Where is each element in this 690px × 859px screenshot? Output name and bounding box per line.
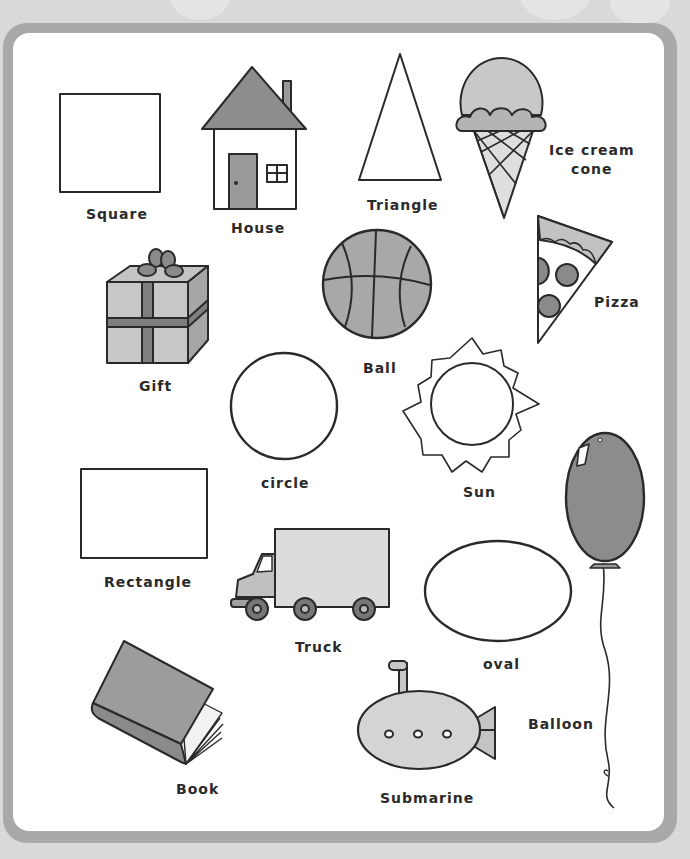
pizza-icon [538, 216, 612, 343]
balloon-icon [566, 433, 644, 808]
book-icon [92, 641, 223, 764]
label-pizza: Pizza [594, 294, 640, 310]
ice-cream-cone-icon [456, 58, 545, 218]
label-ice-cream-line1: Ice cream [549, 141, 635, 160]
label-truck: Truck [295, 639, 343, 655]
label-ice-cream-cone: Ice cream cone [549, 141, 635, 179]
label-balloon: Balloon [528, 716, 594, 732]
label-square: Square [86, 206, 148, 222]
sun-icon [403, 338, 539, 472]
oval-shape [425, 541, 571, 641]
label-submarine: Submarine [380, 790, 474, 806]
truck-icon [231, 529, 389, 620]
label-rectangle: Rectangle [104, 574, 192, 590]
label-house: House [231, 220, 285, 236]
label-ice-cream-line2: cone [549, 160, 635, 179]
square-shape [60, 94, 160, 192]
label-ball: Ball [363, 360, 397, 376]
triangle-shape [359, 54, 441, 180]
label-triangle: Triangle [367, 197, 438, 213]
label-sun: Sun [463, 484, 496, 500]
label-gift: Gift [139, 378, 172, 394]
label-book: Book [176, 781, 219, 797]
rectangle-shape [81, 469, 207, 558]
gift-icon [107, 249, 208, 363]
circle-shape [231, 353, 337, 459]
house-icon [202, 67, 306, 209]
label-circle: circle [261, 475, 310, 491]
submarine-icon [358, 661, 495, 769]
label-oval: oval [483, 656, 520, 672]
ball-icon [323, 230, 431, 338]
